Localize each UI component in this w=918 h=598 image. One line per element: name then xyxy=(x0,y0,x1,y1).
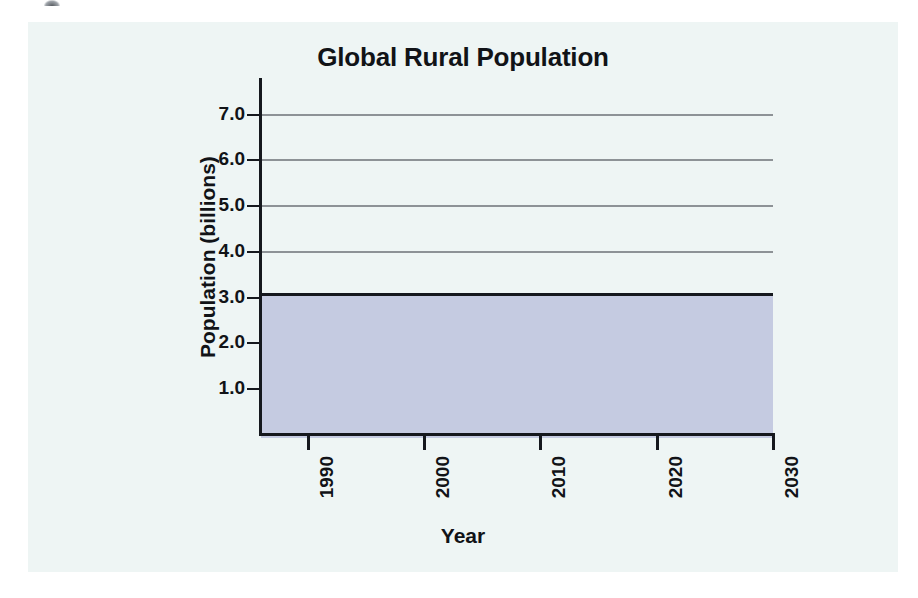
x-axis-tick xyxy=(307,436,310,450)
area-chart: Global Rural Population Population (bill… xyxy=(28,22,898,572)
y-axis-tick-label: 3.0 xyxy=(199,286,245,308)
y-axis-tick xyxy=(247,251,259,253)
y-axis-tick-label: 7.0 xyxy=(199,103,245,125)
y-axis-tick-label: 4.0 xyxy=(199,240,245,262)
x-axis-tick xyxy=(539,436,542,450)
y-axis-tick-label: 2.0 xyxy=(199,331,245,353)
y-axis-tick xyxy=(247,114,259,116)
x-axis-tick-label: 1990 xyxy=(316,456,338,498)
gridline xyxy=(261,159,773,161)
gridline xyxy=(261,205,773,207)
x-axis-tick-label: 2000 xyxy=(432,456,454,498)
gridline xyxy=(261,114,773,116)
scanned-page: Global Rural Population Population (bill… xyxy=(0,0,918,598)
x-axis-tick xyxy=(772,436,775,450)
area-series-fill xyxy=(261,293,773,438)
gridline xyxy=(261,251,773,253)
y-axis-tick xyxy=(247,205,259,207)
y-axis-tick-label: 5.0 xyxy=(199,194,245,216)
x-axis-tick xyxy=(656,436,659,450)
x-axis-tick-label: 2010 xyxy=(548,456,570,498)
figure-panel: Global Rural Population Population (bill… xyxy=(28,22,898,572)
y-axis-tick xyxy=(247,342,259,344)
y-axis-tick-label: 6.0 xyxy=(199,148,245,170)
scan-artifact xyxy=(44,0,60,6)
x-axis-tick-label: 2020 xyxy=(665,456,687,498)
y-axis-tick xyxy=(247,297,259,299)
y-axis-tick-label: 1.0 xyxy=(199,377,245,399)
x-axis-tick xyxy=(423,436,426,450)
y-axis-tick xyxy=(247,388,259,390)
x-axis-spine xyxy=(259,433,775,436)
x-axis-title: Year xyxy=(28,524,898,548)
y-axis-tick xyxy=(247,159,259,161)
y-axis-spine xyxy=(259,78,262,435)
plot-area xyxy=(261,78,773,435)
x-axis-tick-label: 2030 xyxy=(781,456,803,498)
chart-title: Global Rural Population xyxy=(28,42,898,73)
